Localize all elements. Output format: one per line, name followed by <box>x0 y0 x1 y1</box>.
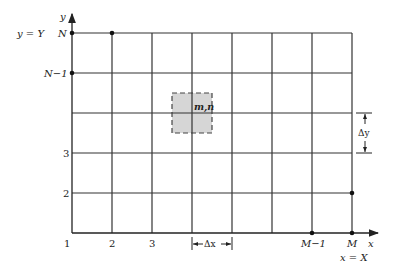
y-boundary-label: y = Y <box>16 28 45 39</box>
grid-diagram: y x y = Y x = X N N−1 3 2 1 2 3 M−1 M m,… <box>0 0 397 273</box>
origin-label: 1 <box>64 238 70 249</box>
y-tick-N-1: N−1 <box>43 68 68 79</box>
dx-label: Δx <box>204 239 216 249</box>
x-boundary-label: x = X <box>340 252 368 263</box>
y-tick-3: 3 <box>63 148 69 159</box>
x-tick-M: M <box>346 238 358 249</box>
y-tick-2: 2 <box>63 188 69 199</box>
x-tick-2: 2 <box>109 238 115 249</box>
horizontal-grid-lines <box>72 33 352 193</box>
x-axis-label: x <box>368 238 374 249</box>
x-tick-M-1: M−1 <box>300 238 326 249</box>
vertical-grid-lines <box>112 33 352 233</box>
y-tick-N: N <box>57 28 68 39</box>
y-axis-label: y <box>59 11 66 22</box>
cell-label: m,n <box>194 101 214 113</box>
x-tick-3: 3 <box>149 238 155 249</box>
dy-label: Δy <box>358 128 370 138</box>
